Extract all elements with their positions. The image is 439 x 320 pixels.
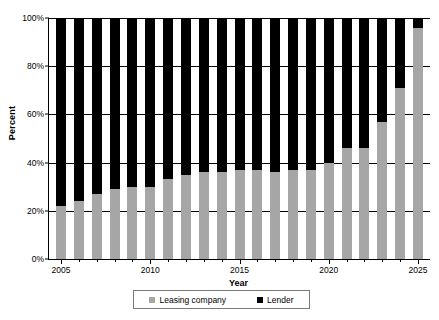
bar-segment-leasing-company [217,172,227,259]
bar-2011 [163,18,173,259]
bar-segment-lender [306,18,316,170]
y-axis-title: Percent [7,93,17,153]
y-tick-label: 60% [27,109,49,119]
bar-segment-lender [377,18,387,122]
legend-label-lender: Lender [267,295,293,305]
bar-segment-leasing-company [145,187,155,259]
bar-segment-leasing-company [163,179,173,259]
bar-segment-lender [110,18,120,189]
bar-segment-leasing-company [324,163,334,259]
bar-2018 [288,18,298,259]
square-gray-icon [149,297,155,303]
bar-segment-lender [395,18,405,88]
x-tick-mark [257,259,258,262]
plot-inner: 0%20%40%60%80%100%20052010201520202025 [49,18,430,259]
x-tick-mark [168,259,169,262]
bar-2009 [127,18,137,259]
x-tick-mark [311,259,312,262]
bar-segment-leasing-company [56,206,66,259]
bar-segment-lender [342,18,352,148]
bar-segment-leasing-company [181,175,191,259]
bar-2006 [74,18,84,259]
bar-segment-leasing-company [377,122,387,259]
bar-segment-leasing-company [270,172,280,259]
bar-segment-lender [74,18,84,201]
bar-2010 [145,18,155,259]
bar-2023 [377,18,387,259]
x-tick-mark [79,259,80,262]
bar-segment-lender [359,18,369,148]
y-tick-label: 40% [27,158,49,168]
x-tick-mark [186,259,187,262]
bar-segment-lender [199,18,209,172]
bar-2008 [110,18,120,259]
legend-item-lender: Lender [257,295,293,305]
bar-2019 [306,18,316,259]
bar-2024 [395,18,405,259]
x-tick-mark [275,259,276,262]
bar-segment-lender [252,18,262,170]
x-tick-mark [293,259,294,262]
bar-2007 [92,18,102,259]
bar-segment-lender [127,18,137,187]
bar-segment-lender [413,18,423,28]
x-tick-mark [418,259,419,264]
x-tick-label: 2025 [409,265,428,275]
x-tick-mark [329,259,330,264]
bar-segment-lender [217,18,227,172]
bar-2020 [324,18,334,259]
x-tick-mark [204,259,205,262]
bar-2025 [413,18,423,259]
bar-2012 [181,18,191,259]
plot-area: 0%20%40%60%80%100%20052010201520202025 [48,18,430,260]
bar-segment-leasing-company [288,170,298,259]
legend-item-leasing-company: Leasing company [149,295,226,305]
x-tick-mark [347,259,348,262]
bar-segment-lender [56,18,66,206]
bar-segment-leasing-company [306,170,316,259]
x-tick-mark [400,259,401,262]
bar-segment-leasing-company [92,194,102,259]
x-tick-mark [97,259,98,262]
y-tick-label: 0% [32,254,49,264]
bar-2014 [217,18,227,259]
x-tick-mark [364,259,365,262]
stacked-bar-chart: Percent 0%20%40%60%80%100%20052010201520… [0,0,439,320]
bar-segment-leasing-company [252,170,262,259]
bar-segment-lender [324,18,334,163]
bar-segment-lender [163,18,173,179]
x-tick-mark [382,259,383,262]
bar-2015 [235,18,245,259]
bar-2021 [342,18,352,259]
bar-2017 [270,18,280,259]
x-tick-label: 2015 [230,265,249,275]
bar-2013 [199,18,209,259]
x-tick-label: 2020 [319,265,338,275]
bar-2022 [359,18,369,259]
bar-segment-leasing-company [342,148,352,259]
x-tick-mark [240,259,241,264]
x-tick-mark [150,259,151,264]
bar-segment-lender [92,18,102,194]
bar-segment-leasing-company [127,187,137,259]
square-black-icon [257,297,263,303]
bar-segment-lender [270,18,280,172]
bar-2005 [56,18,66,259]
y-tick-label: 20% [27,206,49,216]
bar-segment-leasing-company [359,148,369,259]
bar-segment-lender [181,18,191,175]
bar-2016 [252,18,262,259]
legend-label-leasing-company: Leasing company [159,295,226,305]
bar-segment-lender [145,18,155,187]
y-tick-label: 100% [22,13,49,23]
x-tick-label: 2010 [141,265,160,275]
x-axis-title: Year [48,278,429,288]
x-tick-label: 2005 [52,265,71,275]
x-tick-mark [115,259,116,262]
x-tick-mark [61,259,62,264]
x-tick-mark [222,259,223,262]
bar-segment-leasing-company [235,170,245,259]
chart-legend: Leasing company Lender [133,290,310,309]
bar-segment-lender [235,18,245,170]
bar-segment-leasing-company [74,201,84,259]
